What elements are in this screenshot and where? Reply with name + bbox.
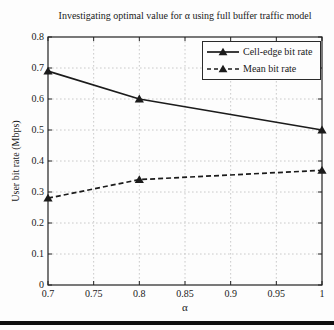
solid-line-triangle-marker-icon bbox=[206, 46, 240, 58]
y-tick-label: 0 bbox=[6, 279, 44, 291]
y-tick-label: 0.1 bbox=[6, 248, 44, 260]
page-rule-divider bbox=[0, 321, 334, 325]
x-tick-label: 0.95 bbox=[256, 288, 296, 300]
x-tick-label: 0.9 bbox=[211, 288, 251, 300]
x-tick-label: 0.75 bbox=[74, 288, 114, 300]
y-tick-label: 0.8 bbox=[6, 31, 44, 43]
legend-entry-cell-edge: Cell-edge bit rate bbox=[206, 44, 317, 60]
dashed-line-triangle-marker-icon bbox=[206, 63, 240, 75]
legend-entry-mean: Mean bit rate bbox=[206, 61, 317, 77]
y-tick-label: 0.6 bbox=[6, 93, 44, 105]
y-tick-label: 0.3 bbox=[6, 186, 44, 198]
x-tick-label: 0.85 bbox=[165, 288, 205, 300]
y-tick-label: 0.4 bbox=[6, 155, 44, 167]
x-tick-label: 0.8 bbox=[119, 288, 159, 300]
x-tick-label: 1 bbox=[302, 288, 334, 300]
x-axis-label: α bbox=[48, 301, 322, 314]
y-tick-label: 0.7 bbox=[6, 62, 44, 74]
legend-label-cell-edge: Cell-edge bit rate bbox=[243, 46, 312, 58]
figure-container: Investigating optimal value for α using … bbox=[0, 0, 334, 330]
chart-title: Investigating optimal value for α using … bbox=[48, 10, 322, 22]
y-tick-label: 0.2 bbox=[6, 217, 44, 229]
legend-label-mean: Mean bit rate bbox=[243, 63, 296, 75]
legend: Cell-edge bit rate Mean bit rate bbox=[202, 41, 321, 80]
y-tick-label: 0.5 bbox=[6, 124, 44, 136]
